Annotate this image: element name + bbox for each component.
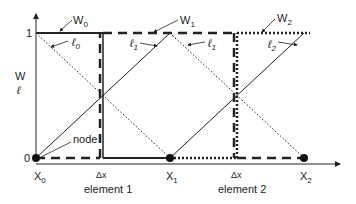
l2-rise bbox=[170, 33, 304, 158]
tick-1: 1 bbox=[26, 27, 32, 39]
element-2-label: element 2 bbox=[218, 183, 266, 195]
dx-label-1: Δx bbox=[96, 170, 107, 180]
label-l0: ℓ0 bbox=[71, 36, 81, 51]
w2-pointer bbox=[262, 19, 275, 32]
w0-pointer bbox=[60, 20, 72, 31]
label-w1: W1 bbox=[180, 14, 195, 29]
tick-0: 0 bbox=[24, 152, 30, 164]
node-x2 bbox=[300, 154, 308, 162]
y-label-l: ℓ bbox=[16, 84, 21, 96]
node-x1 bbox=[166, 154, 174, 162]
label-w2: W2 bbox=[277, 12, 292, 27]
y-label-w: W bbox=[15, 70, 26, 82]
w1-pointer bbox=[154, 20, 178, 32]
label-x2: X2 bbox=[300, 170, 312, 185]
label-x1: X1 bbox=[166, 170, 178, 185]
label-l1-right: ℓ1 bbox=[207, 37, 216, 52]
l1-right-pointer bbox=[188, 42, 205, 45]
label-w0: W0 bbox=[73, 14, 88, 29]
dx-label-2: Δx bbox=[231, 170, 242, 180]
label-l2: ℓ2 bbox=[267, 38, 277, 53]
label-x0: X0 bbox=[34, 170, 46, 185]
finite-element-diagram: 1 0 W ℓ X0 X1 X2 Δx Δx element 1 element… bbox=[0, 0, 356, 204]
node-label: node bbox=[73, 133, 97, 145]
label-l1-left: ℓ1 bbox=[129, 37, 138, 52]
l-extend bbox=[170, 33, 177, 40]
l1-left-pointer bbox=[140, 43, 157, 46]
element-1-label: element 1 bbox=[84, 183, 132, 195]
node-x0 bbox=[32, 154, 40, 162]
l0-pointer bbox=[51, 41, 68, 47]
